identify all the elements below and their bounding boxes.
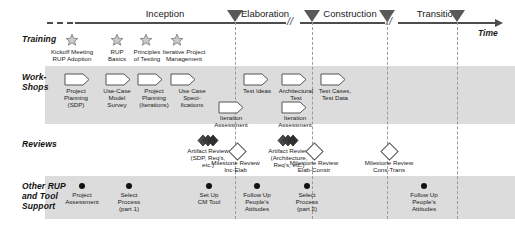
- support-item-label: Follow Up People's Attitudes: [235, 191, 279, 212]
- workshop-item-label: Test Cases, Test Data: [314, 87, 356, 101]
- time-axis-label: Time: [478, 28, 498, 38]
- workshop-item-label: Project Planning (SDP): [55, 87, 97, 108]
- support-dot-icon: [206, 183, 212, 189]
- axis-dashed-start: [47, 22, 75, 24]
- training-item-label: Iterative Project Management: [160, 48, 208, 62]
- milestone-triangle-inc-elab: [227, 10, 243, 22]
- phase-label-inception: Inception: [100, 8, 230, 19]
- workshop-item-label: Architectural Test: [274, 87, 318, 101]
- milestone-review-icon: [380, 142, 398, 160]
- guide-constr-trans: [387, 22, 388, 219]
- axis-arrowhead: [495, 19, 503, 27]
- workshop-item-label: Project Planning (Iterations): [133, 87, 175, 108]
- workshop-item-label: Iteration Assessment: [209, 114, 253, 128]
- support-dot-icon: [304, 183, 310, 189]
- star-icon: [139, 33, 153, 47]
- phase-label-elaboration: Elaboration: [235, 8, 295, 19]
- milestone-triangle-elab-constr: [304, 10, 320, 22]
- training-item-label: Kickoff Meeting RUP Adoption: [42, 48, 102, 62]
- workshop-item-label: Use-Case Model Survey: [96, 87, 138, 108]
- workshop-item-label: Iteration Assessment: [273, 114, 317, 128]
- row-label-workshops: Work- Shops: [22, 72, 48, 92]
- support-item-label: Project Assessment: [60, 191, 104, 205]
- milestone-triangle-constr-trans: [379, 10, 395, 22]
- workshop-item-label: Test Ideas: [237, 87, 277, 94]
- support-dot-icon: [126, 183, 132, 189]
- axis-line-1: [75, 22, 286, 24]
- support-item-label: Follow Up People's Attitudes: [402, 191, 446, 212]
- star-icon: [65, 33, 79, 47]
- support-item-label: Set Up CM Tool: [187, 191, 231, 205]
- roadmap-diagram: // // Time Inception Elaboration Constru…: [0, 0, 515, 227]
- row-label-training: Training: [22, 34, 56, 44]
- phase-label-construction: Construction: [315, 8, 385, 19]
- support-dot-icon: [254, 183, 260, 189]
- support-item-label: Select Process (part 2): [285, 191, 329, 212]
- row-label-reviews: Reviews: [22, 139, 57, 149]
- milestone-triangle-end: [449, 10, 465, 22]
- review-item-label: Milestone Review Cons-Trans: [357, 159, 421, 173]
- support-dot-icon: [79, 183, 85, 189]
- review-item-label: Milestone Review Elab-Constr: [282, 159, 346, 173]
- workshop-item-label: Use Case Speci- fications: [171, 87, 213, 108]
- support-item-label: Select Process (part 1): [107, 191, 151, 212]
- star-icon: [110, 33, 124, 47]
- axis-line-3: [398, 22, 497, 24]
- support-dot-icon: [421, 183, 427, 189]
- guide-end: [457, 22, 458, 219]
- star-icon: [170, 33, 184, 47]
